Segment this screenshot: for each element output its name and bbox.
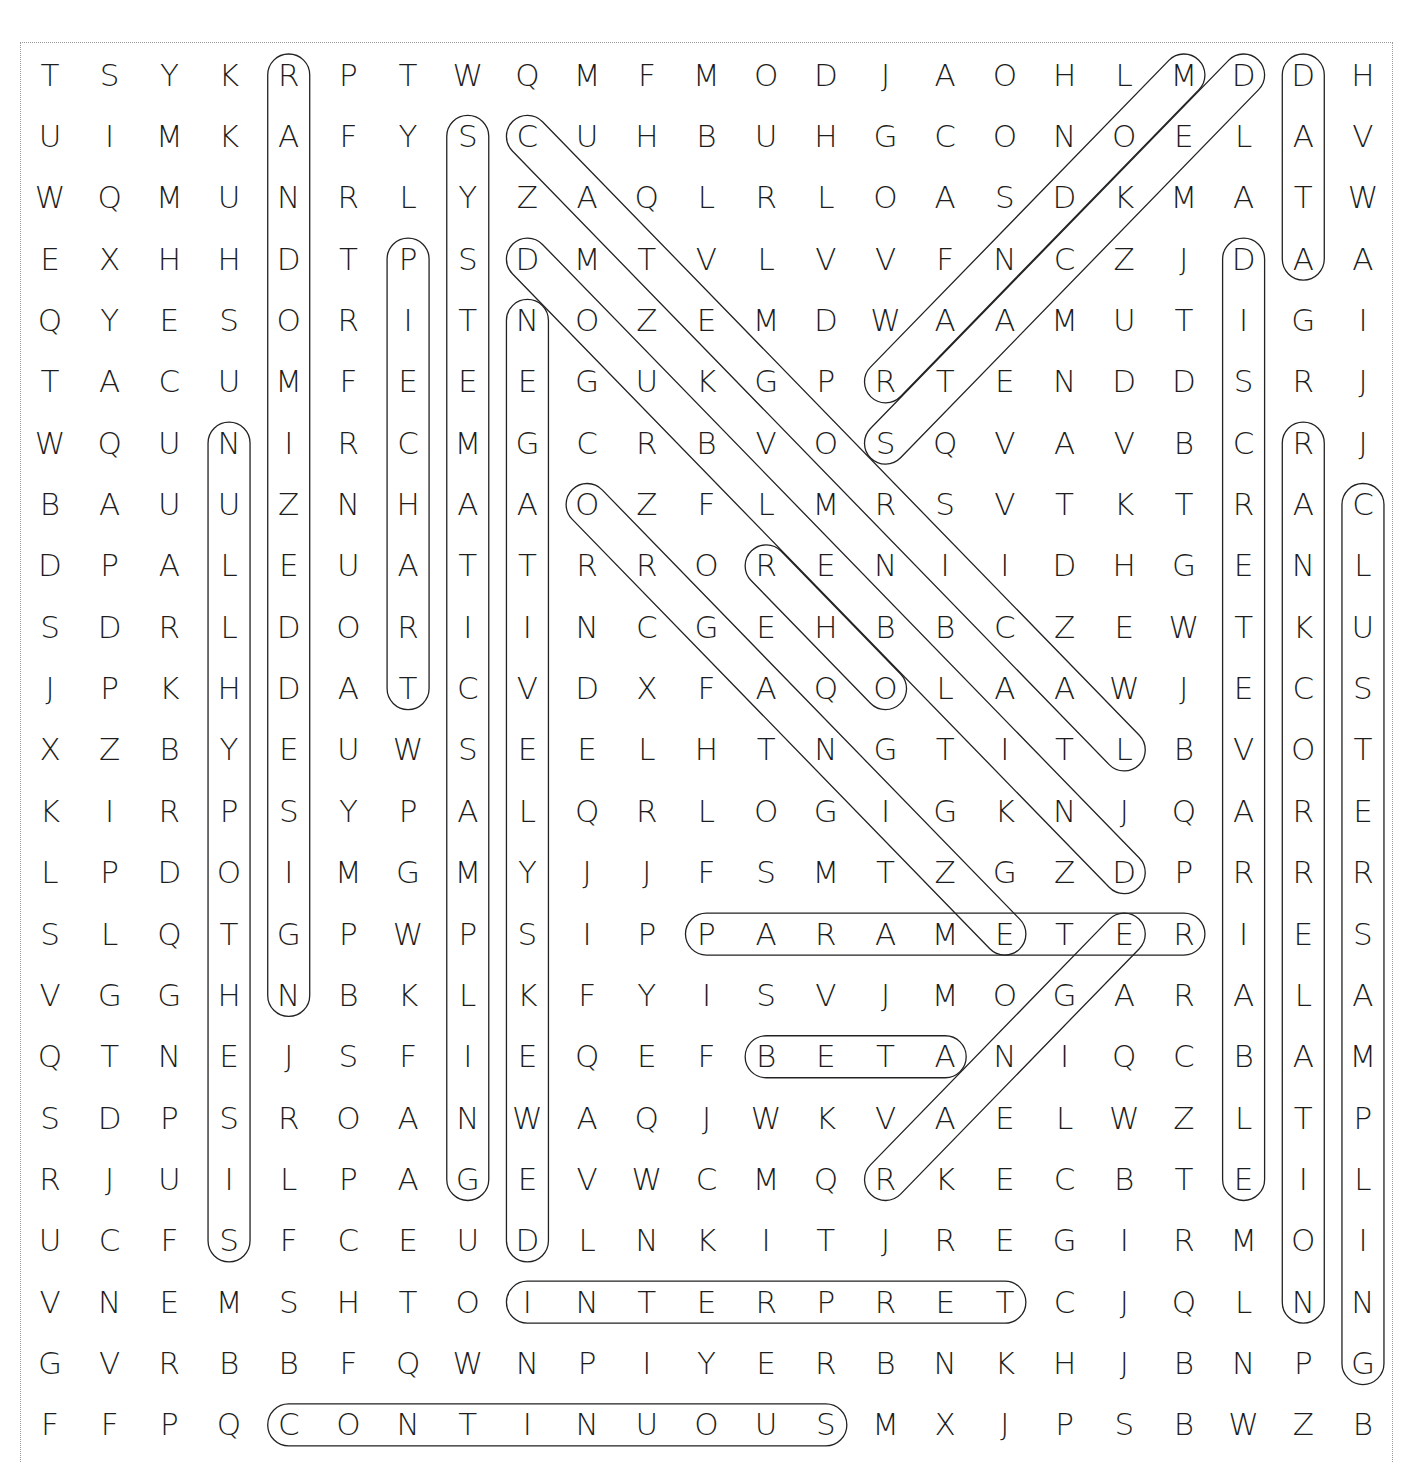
grid-cell[interactable]: K <box>980 786 1030 836</box>
grid-cell[interactable]: M <box>144 173 194 223</box>
grid-cell[interactable]: B <box>144 725 194 775</box>
grid-cell[interactable]: J <box>1159 664 1209 714</box>
grid-cell[interactable]: J <box>622 848 672 898</box>
grid-cell[interactable]: T <box>443 1400 493 1450</box>
grid-cell[interactable]: I <box>861 786 911 836</box>
grid-cell[interactable]: R <box>264 50 314 100</box>
grid-cell[interactable]: U <box>323 725 373 775</box>
grid-cell[interactable]: M <box>323 848 373 898</box>
grid-cell[interactable]: A <box>861 909 911 959</box>
grid-cell[interactable]: S <box>264 786 314 836</box>
grid-cell[interactable]: Y <box>502 848 552 898</box>
grid-cell[interactable]: A <box>1278 1032 1328 1082</box>
grid-cell[interactable]: N <box>502 295 552 345</box>
grid-cell[interactable]: W <box>383 909 433 959</box>
grid-cell[interactable]: A <box>980 295 1030 345</box>
grid-cell[interactable]: C <box>562 418 612 468</box>
grid-cell[interactable]: C <box>264 1400 314 1450</box>
grid-cell[interactable]: T <box>383 1277 433 1327</box>
grid-cell[interactable]: D <box>1099 848 1149 898</box>
grid-cell[interactable]: D <box>264 602 314 652</box>
grid-cell[interactable]: S <box>85 50 135 100</box>
grid-cell[interactable]: A <box>383 541 433 591</box>
grid-cell[interactable]: T <box>861 1032 911 1082</box>
grid-cell[interactable]: M <box>562 234 612 284</box>
grid-cell[interactable]: T <box>383 50 433 100</box>
grid-cell[interactable]: T <box>801 1216 851 1266</box>
grid-cell[interactable]: R <box>323 418 373 468</box>
grid-cell[interactable]: S <box>801 1400 851 1450</box>
grid-cell[interactable]: S <box>1338 664 1388 714</box>
grid-cell[interactable]: A <box>1278 111 1328 161</box>
grid-cell[interactable]: T <box>1338 725 1388 775</box>
grid-cell[interactable]: O <box>1099 111 1149 161</box>
grid-cell[interactable]: Q <box>562 1032 612 1082</box>
grid-cell[interactable]: U <box>443 1216 493 1266</box>
grid-cell[interactable]: Z <box>1099 234 1149 284</box>
grid-cell[interactable]: R <box>1278 357 1328 407</box>
grid-cell[interactable]: I <box>920 541 970 591</box>
grid-cell[interactable]: W <box>1338 173 1388 223</box>
grid-cell[interactable]: T <box>1040 480 1090 530</box>
grid-cell[interactable]: W <box>1099 1093 1149 1143</box>
grid-cell[interactable]: P <box>801 1277 851 1327</box>
grid-cell[interactable]: G <box>502 418 552 468</box>
grid-cell[interactable]: F <box>323 1339 373 1389</box>
grid-cell[interactable]: N <box>562 602 612 652</box>
grid-cell[interactable]: T <box>85 1032 135 1082</box>
grid-cell[interactable]: F <box>681 480 731 530</box>
grid-cell[interactable]: C <box>1040 1154 1090 1204</box>
grid-cell[interactable]: T <box>1278 1093 1328 1143</box>
grid-cell[interactable]: P <box>1159 848 1209 898</box>
grid-cell[interactable]: O <box>980 50 1030 100</box>
grid-cell[interactable]: R <box>622 541 672 591</box>
grid-cell[interactable]: J <box>1338 418 1388 468</box>
grid-cell[interactable]: S <box>1099 1400 1149 1450</box>
grid-cell[interactable]: O <box>741 786 791 836</box>
grid-cell[interactable]: M <box>801 480 851 530</box>
grid-cell[interactable]: D <box>85 602 135 652</box>
grid-cell[interactable]: A <box>443 786 493 836</box>
grid-cell[interactable]: I <box>85 786 135 836</box>
grid-cell[interactable]: B <box>681 111 731 161</box>
grid-cell[interactable]: E <box>264 541 314 591</box>
grid-cell[interactable]: J <box>1099 1339 1149 1389</box>
grid-cell[interactable]: M <box>144 111 194 161</box>
grid-cell[interactable]: O <box>980 111 1030 161</box>
grid-cell[interactable]: W <box>1219 1400 1269 1450</box>
grid-cell[interactable]: D <box>1040 173 1090 223</box>
grid-cell[interactable]: E <box>1159 111 1209 161</box>
grid-cell[interactable]: S <box>204 1216 254 1266</box>
grid-cell[interactable]: A <box>920 295 970 345</box>
grid-cell[interactable]: G <box>443 1154 493 1204</box>
grid-cell[interactable]: R <box>861 1154 911 1204</box>
grid-cell[interactable]: K <box>801 1093 851 1143</box>
grid-cell[interactable]: T <box>1278 173 1328 223</box>
grid-cell[interactable]: P <box>85 848 135 898</box>
grid-cell[interactable]: O <box>1278 1216 1328 1266</box>
grid-cell[interactable]: B <box>1338 1400 1388 1450</box>
grid-cell[interactable]: S <box>264 1277 314 1327</box>
grid-cell[interactable]: Z <box>264 480 314 530</box>
grid-cell[interactable]: D <box>1099 357 1149 407</box>
grid-cell[interactable]: C <box>1338 480 1388 530</box>
grid-cell[interactable]: F <box>681 664 731 714</box>
grid-cell[interactable]: R <box>323 295 373 345</box>
grid-cell[interactable]: R <box>264 1093 314 1143</box>
grid-cell[interactable]: C <box>622 602 672 652</box>
grid-cell[interactable]: J <box>562 848 612 898</box>
grid-cell[interactable]: L <box>1040 1093 1090 1143</box>
grid-cell[interactable]: I <box>264 418 314 468</box>
grid-cell[interactable]: J <box>1338 357 1388 407</box>
grid-cell[interactable]: H <box>1040 1339 1090 1389</box>
grid-cell[interactable]: T <box>622 234 672 284</box>
grid-cell[interactable]: V <box>502 664 552 714</box>
grid-cell[interactable]: G <box>1338 1339 1388 1389</box>
grid-cell[interactable]: C <box>1040 1277 1090 1327</box>
grid-cell[interactable]: M <box>443 848 493 898</box>
grid-cell[interactable]: P <box>1338 1093 1388 1143</box>
grid-cell[interactable]: M <box>204 1277 254 1327</box>
grid-cell[interactable]: O <box>204 848 254 898</box>
grid-cell[interactable]: R <box>25 1154 75 1204</box>
grid-cell[interactable]: I <box>1099 1216 1149 1266</box>
